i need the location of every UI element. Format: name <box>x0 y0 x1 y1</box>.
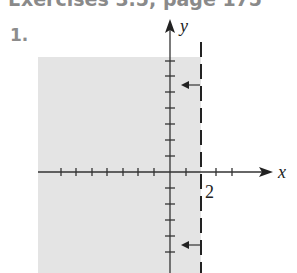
shaded-region <box>38 57 201 273</box>
x-axis-label: x <box>277 162 286 182</box>
y-axis-label: y <box>178 16 188 36</box>
boundary-label: 2 <box>205 182 214 202</box>
inequality-graph: x y 2 <box>0 0 297 273</box>
